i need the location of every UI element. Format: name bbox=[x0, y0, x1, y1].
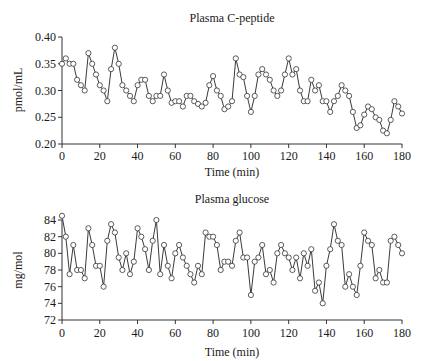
data-point-marker bbox=[188, 272, 193, 277]
data-point-marker bbox=[362, 230, 367, 235]
data-point-marker bbox=[282, 251, 287, 256]
data-point-marker bbox=[324, 263, 329, 268]
data-point-marker bbox=[67, 272, 72, 277]
data-point-marker bbox=[335, 238, 340, 243]
data-point-marker bbox=[245, 93, 250, 98]
data-point-marker bbox=[211, 74, 216, 79]
data-point-marker bbox=[339, 242, 344, 247]
y-axis-label: mg/mol bbox=[11, 251, 25, 289]
data-point-marker bbox=[294, 67, 299, 72]
data-point-marker bbox=[286, 255, 291, 260]
data-point-marker bbox=[109, 67, 114, 72]
data-point-marker bbox=[305, 263, 310, 268]
data-point-marker bbox=[203, 100, 208, 105]
series-line bbox=[62, 216, 402, 303]
data-point-marker bbox=[165, 263, 170, 268]
data-point-marker bbox=[169, 276, 174, 281]
data-point-marker bbox=[339, 83, 344, 88]
data-point-marker bbox=[331, 222, 336, 227]
data-point-marker bbox=[256, 72, 261, 77]
data-point-marker bbox=[275, 93, 280, 98]
x-tick-label: 60 bbox=[169, 326, 181, 340]
data-point-marker bbox=[101, 284, 106, 289]
data-point-marker bbox=[252, 259, 257, 264]
x-tick-label: 160 bbox=[355, 149, 373, 163]
x-tick-label: 0 bbox=[59, 326, 65, 340]
data-point-marker bbox=[211, 234, 216, 239]
data-point-marker bbox=[263, 272, 268, 277]
data-point-marker bbox=[161, 242, 166, 247]
data-point-marker bbox=[237, 230, 242, 235]
data-point-marker bbox=[124, 88, 129, 93]
data-point-marker bbox=[59, 213, 64, 218]
data-point-marker bbox=[218, 267, 223, 272]
data-point-marker bbox=[116, 255, 121, 260]
x-tick-label: 0 bbox=[59, 149, 65, 163]
data-point-marker bbox=[297, 88, 302, 93]
data-point-marker bbox=[316, 280, 321, 285]
data-point-marker bbox=[290, 72, 295, 77]
data-point-marker bbox=[184, 263, 189, 268]
data-point-marker bbox=[226, 259, 231, 264]
data-point-marker bbox=[97, 83, 102, 88]
data-point-marker bbox=[369, 107, 374, 112]
data-point-marker bbox=[343, 88, 348, 93]
glucose-panel: Plasma glucose mg/mol Time (min) 7274767… bbox=[11, 192, 411, 359]
x-tick-label: 100 bbox=[242, 149, 260, 163]
data-point-marker bbox=[233, 238, 238, 243]
x-axis-label: Time (min) bbox=[205, 345, 260, 359]
y-tick-label: 80 bbox=[44, 246, 56, 260]
data-point-marker bbox=[347, 93, 352, 98]
data-point-marker bbox=[331, 99, 336, 104]
data-point-marker bbox=[127, 93, 132, 98]
data-point-marker bbox=[165, 88, 170, 93]
data-point-marker bbox=[248, 109, 253, 114]
data-point-marker bbox=[150, 99, 155, 104]
data-point-marker bbox=[282, 72, 287, 77]
data-point-marker bbox=[139, 234, 144, 239]
data-point-marker bbox=[305, 99, 310, 104]
data-point-marker bbox=[214, 88, 219, 93]
data-point-marker bbox=[192, 280, 197, 285]
x-tick-label: 80 bbox=[207, 149, 219, 163]
y-tick-label: 72 bbox=[44, 313, 56, 327]
data-point-marker bbox=[399, 251, 404, 256]
data-point-marker bbox=[358, 123, 363, 128]
data-point-marker bbox=[131, 99, 136, 104]
data-point-marker bbox=[199, 272, 204, 277]
data-point-marker bbox=[112, 45, 117, 50]
data-point-marker bbox=[71, 61, 76, 66]
data-point-marker bbox=[309, 247, 314, 252]
data-point-marker bbox=[297, 276, 302, 281]
data-point-marker bbox=[335, 93, 340, 98]
data-point-marker bbox=[328, 247, 333, 252]
data-point-marker bbox=[263, 72, 268, 77]
data-point-marker bbox=[90, 61, 95, 66]
data-point-marker bbox=[256, 255, 261, 260]
data-point-marker bbox=[396, 104, 401, 109]
y-tick-label: 78 bbox=[44, 263, 56, 277]
data-point-marker bbox=[316, 83, 321, 88]
data-point-marker bbox=[59, 61, 64, 66]
data-point-marker bbox=[384, 280, 389, 285]
figure: Plasma C-peptide pmol/mL Time (min) 0.20… bbox=[0, 0, 422, 361]
data-point-marker bbox=[279, 242, 284, 247]
data-point-marker bbox=[188, 93, 193, 98]
data-point-marker bbox=[271, 280, 276, 285]
data-point-marker bbox=[271, 88, 276, 93]
data-point-marker bbox=[154, 217, 159, 222]
data-point-marker bbox=[135, 83, 140, 88]
axes: 72747678808284020406080100120140160180 bbox=[44, 213, 411, 340]
data-point-marker bbox=[158, 93, 163, 98]
data-point-marker bbox=[373, 276, 378, 281]
data-point-marker bbox=[150, 238, 155, 243]
y-tick-label: 82 bbox=[44, 230, 56, 244]
c-peptide-panel: Plasma C-peptide pmol/mL Time (min) 0.20… bbox=[11, 11, 411, 179]
y-tick-label: 0.40 bbox=[35, 30, 56, 44]
chart-title: Plasma glucose bbox=[195, 192, 269, 206]
x-tick-label: 60 bbox=[169, 149, 181, 163]
data-point-marker bbox=[75, 77, 80, 82]
x-tick-label: 100 bbox=[242, 326, 260, 340]
data-point-marker bbox=[233, 56, 238, 61]
data-point-marker bbox=[161, 72, 166, 77]
